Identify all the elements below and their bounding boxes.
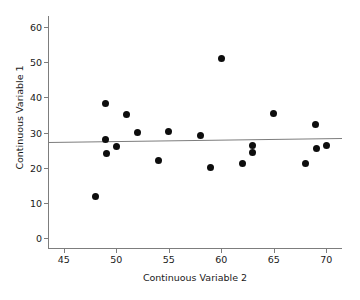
data-point (249, 149, 256, 156)
x-tick-label-65: 65 (268, 254, 280, 265)
y-tick-label-10: 10 (30, 198, 42, 209)
data-point (218, 55, 225, 62)
data-point (270, 110, 277, 117)
y-tick-0 (44, 238, 48, 239)
x-tick-label-45: 45 (58, 254, 70, 265)
data-point (113, 143, 120, 150)
y-tick-label-40: 40 (30, 92, 42, 103)
x-tick-70 (326, 249, 327, 253)
x-tick-label-55: 55 (163, 254, 175, 265)
y-axis-title: Continuous Variable 1 (14, 38, 25, 198)
x-tick-65 (274, 249, 275, 253)
x-tick-60 (221, 249, 222, 253)
data-point (323, 142, 330, 149)
y-tick-label-20: 20 (30, 162, 42, 173)
y-tick-label-60: 60 (30, 21, 42, 32)
data-point (165, 128, 172, 135)
data-point (92, 193, 99, 200)
y-tick-20 (44, 168, 48, 169)
plot-area: 0102030405060 455055606570 (48, 16, 342, 249)
y-tick-60 (44, 27, 48, 28)
x-tick-50 (116, 249, 117, 253)
data-point (123, 111, 130, 118)
x-tick-45 (64, 249, 65, 253)
y-tick-50 (44, 62, 48, 63)
y-tick-10 (44, 203, 48, 204)
data-point (313, 145, 320, 152)
trend-line (48, 138, 342, 143)
x-tick-55 (169, 249, 170, 253)
x-axis-line (48, 248, 342, 249)
y-tick-30 (44, 133, 48, 134)
data-point (134, 129, 141, 136)
x-tick-label-60: 60 (215, 254, 227, 265)
scatter-plot-figure: 0102030405060 455055606570 Continuous Va… (0, 0, 360, 300)
y-tick-label-50: 50 (30, 56, 42, 67)
y-tick-label-0: 0 (36, 233, 42, 244)
data-point (197, 132, 204, 139)
data-point (249, 142, 256, 149)
y-axis-line (48, 16, 49, 249)
data-point (239, 160, 246, 167)
x-tick-label-50: 50 (110, 254, 122, 265)
data-point (312, 121, 319, 128)
data-point (155, 157, 162, 164)
y-tick-40 (44, 97, 48, 98)
data-point (302, 160, 309, 167)
y-tick-label-30: 30 (30, 127, 42, 138)
x-tick-label-70: 70 (320, 254, 332, 265)
data-point (102, 100, 109, 107)
data-point (103, 150, 110, 157)
x-axis-title: Continuous Variable 2 (48, 272, 342, 283)
data-point (207, 164, 214, 171)
